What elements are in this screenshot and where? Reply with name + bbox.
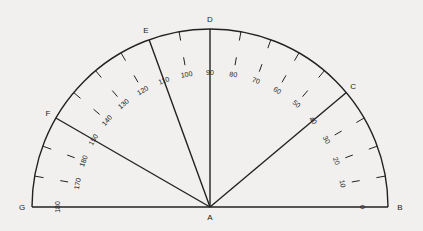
degree-label: 180 [78, 154, 89, 167]
point-label-B: B [397, 203, 402, 212]
outer-tick-170 [35, 176, 44, 178]
degree-label: 140 [100, 114, 113, 128]
outer-tick-120 [121, 53, 126, 61]
point-label-E: E [143, 26, 148, 35]
inner-tick-10 [352, 181, 360, 182]
degree-label: 10 [338, 179, 346, 188]
protractor-diagram: 0102030405060708090100110120130140150180… [0, 0, 423, 231]
degree-label: 20 [332, 156, 341, 166]
outer-tick-80 [239, 32, 241, 41]
inner-tick-30 [335, 131, 342, 135]
outer-tick-10 [376, 176, 385, 178]
point-label-A: A [207, 213, 213, 222]
outer-tick-60 [295, 53, 300, 61]
degree-label: 80 [229, 70, 238, 78]
degree-label: 0 [359, 205, 366, 209]
inner-tick-100 [184, 57, 185, 65]
degree-label: 180 [54, 201, 61, 213]
inner-tick-140 [94, 109, 100, 114]
degree-label: 30 [322, 135, 332, 145]
inner-tick-130 [112, 91, 117, 97]
outer-tick-50 [319, 71, 325, 78]
degree-label: 90 [206, 69, 214, 76]
ray-AC [210, 93, 346, 207]
degree-label: 70 [251, 76, 261, 85]
outer-tick-160 [43, 146, 51, 149]
degree-label: 150 [87, 133, 99, 147]
point-label-F: F [46, 109, 51, 118]
outer-tick-140 [74, 93, 81, 99]
degree-label: 120 [136, 84, 150, 96]
degree-label: 130 [117, 97, 131, 110]
outer-tick-100 [179, 32, 181, 41]
inner-tick-70 [259, 64, 262, 72]
outer-tick-70 [268, 40, 271, 48]
degree-label: 60 [272, 85, 282, 95]
ray-AE [149, 40, 210, 207]
inner-tick-20 [345, 155, 353, 158]
degree-label: 100 [180, 70, 193, 79]
outer-tick-20 [369, 146, 377, 149]
degree-label: 110 [157, 75, 170, 85]
inner-tick-120 [134, 75, 138, 82]
point-label-G: G [19, 203, 25, 212]
degree-label: 170 [73, 177, 82, 190]
degree-label: 50 [291, 99, 302, 109]
outer-tick-130 [96, 71, 102, 78]
point-label-C: C [350, 82, 356, 91]
inner-tick-80 [235, 57, 236, 65]
inner-tick-160 [67, 155, 75, 158]
inner-tick-170 [60, 181, 68, 182]
point-labels: ABCDEFG [19, 15, 403, 222]
inner-tick-60 [282, 75, 286, 82]
outer-tick-30 [356, 118, 364, 123]
inner-tick-50 [303, 91, 308, 97]
point-label-D: D [207, 15, 213, 24]
